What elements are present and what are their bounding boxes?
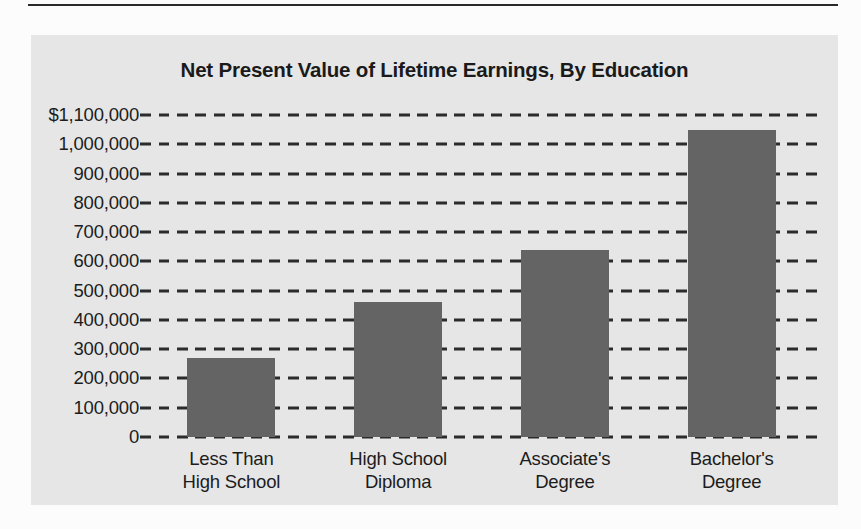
chart-figure-panel: Net Present Value of Lifetime Earnings, … (31, 35, 838, 505)
x-axis-label-line: Bachelor's (690, 447, 774, 470)
y-axis-tick-label: 100,000 (74, 397, 139, 419)
bar (688, 130, 776, 437)
chart-title: Net Present Value of Lifetime Earnings, … (31, 58, 838, 82)
y-axis-tick-label: 900,000 (74, 163, 139, 185)
x-axis-label-line: High School (183, 470, 281, 493)
y-axis-tick-label: 0 (129, 426, 139, 448)
x-axis-label-line: Associate's (519, 447, 610, 470)
x-axis-category-label: Less ThanHigh School (183, 447, 281, 493)
x-axis-category-label: High SchoolDiploma (349, 447, 447, 493)
x-axis-category-label: Associate'sDegree (519, 447, 610, 493)
x-axis-label-line: Diploma (349, 470, 447, 493)
y-axis-tick-label: 700,000 (74, 221, 139, 243)
top-horizontal-rule (28, 4, 838, 6)
y-axis-tick-label: 500,000 (74, 280, 139, 302)
x-axis-label-line: Less Than (183, 447, 281, 470)
y-axis-tick-label: 800,000 (74, 192, 139, 214)
y-axis-tick-label: 200,000 (74, 367, 139, 389)
page-background: Net Present Value of Lifetime Earnings, … (0, 0, 861, 529)
x-axis-label-line: Degree (690, 470, 774, 493)
x-axis-label-line: High School (349, 447, 447, 470)
plot-area: $1,100,0001,000,000900,000800,000700,000… (148, 115, 815, 437)
bar (521, 250, 609, 437)
bar (187, 358, 275, 437)
y-axis-tick-label: 1,000,000 (58, 133, 139, 155)
y-axis-tick-label: 600,000 (74, 250, 139, 272)
y-axis-tick-label: $1,100,000 (48, 104, 139, 126)
gridline (140, 114, 822, 117)
y-axis-tick-label: 400,000 (74, 309, 139, 331)
x-axis-category-label: Bachelor'sDegree (690, 447, 774, 493)
bar (354, 302, 442, 437)
y-axis-tick-label: 300,000 (74, 338, 139, 360)
x-axis-label-line: Degree (519, 470, 610, 493)
